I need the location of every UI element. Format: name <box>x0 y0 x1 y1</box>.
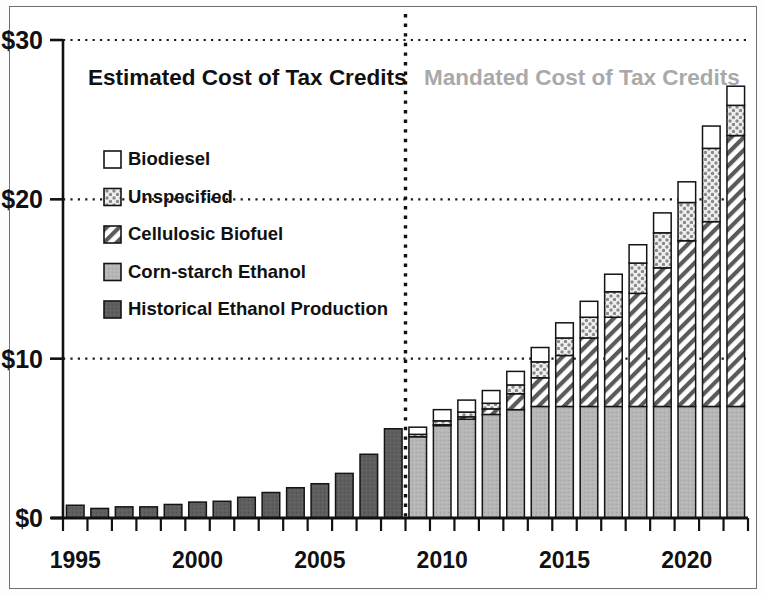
bar-segment <box>140 507 158 518</box>
bar-segment <box>580 317 598 338</box>
bar-segment <box>703 148 721 221</box>
legend-label: Historical Ethanol Production <box>128 298 388 319</box>
bar-segment <box>507 371 525 385</box>
x-axis-tick-label: 2010 <box>417 547 468 573</box>
bar-segment <box>580 301 598 317</box>
y-axis-tick-label: $20 <box>1 185 43 213</box>
x-axis-ticks: 199520002005201020152020 <box>50 518 748 573</box>
bar-segment <box>164 504 182 518</box>
bar-segment <box>654 233 672 268</box>
bar-segment <box>678 241 696 407</box>
x-axis-tick-label: 2005 <box>294 547 345 573</box>
bar-segment <box>703 406 721 518</box>
legend-swatch <box>104 301 121 318</box>
bar-segment <box>433 410 451 421</box>
bar-segment <box>580 338 598 407</box>
bar-segment <box>531 348 549 362</box>
bar-segment <box>507 394 525 410</box>
bar-segment <box>409 427 427 434</box>
bar-segment <box>580 406 598 518</box>
bar-segment <box>238 497 256 518</box>
bar-segment <box>654 268 672 407</box>
bar-segment <box>91 508 109 518</box>
bar-segment <box>360 454 378 518</box>
bar-segment <box>66 505 84 518</box>
legend-label: Corn-starch Ethanol <box>128 261 306 282</box>
bar-segment <box>727 136 745 407</box>
bar-segment <box>654 406 672 518</box>
bar-segment <box>482 409 500 415</box>
bar-segment <box>556 355 574 406</box>
bar-segment <box>531 362 549 378</box>
bar-segment <box>556 406 574 518</box>
bar-segment <box>629 245 647 263</box>
bar-segment <box>409 437 427 518</box>
chart-figure: $0$10$20$30 199520002005201020152020 Est… <box>0 0 763 595</box>
bar-segment <box>629 263 647 293</box>
bar-segment <box>605 292 623 317</box>
bar-segment <box>482 414 500 518</box>
legend-label: Unspecified <box>128 186 233 207</box>
legend-label: Cellulosic Biofuel <box>128 223 283 244</box>
legend-swatch <box>104 226 121 243</box>
x-axis-tick-label: 1995 <box>50 547 101 573</box>
bar-segment <box>311 484 329 518</box>
legend-swatch <box>104 189 121 206</box>
bar-segment <box>531 406 549 518</box>
bar-segment <box>213 501 231 518</box>
bar-segment <box>703 126 721 148</box>
bar-segment <box>727 406 745 518</box>
region-annotation-right: Mandated Cost of Tax Credits <box>424 65 740 90</box>
bar-segment <box>507 410 525 518</box>
bar-segment <box>629 293 647 406</box>
bar-segment <box>678 203 696 241</box>
bar-segment <box>384 429 402 518</box>
y-axis-tick-label: $30 <box>1 26 43 54</box>
chart-legend: BiodieselUnspecifiedCellulosic BiofuelCo… <box>104 148 388 319</box>
legend-label: Biodiesel <box>128 148 210 169</box>
bar-segment <box>703 222 721 407</box>
x-axis-tick-label: 2000 <box>172 547 223 573</box>
bar-segment <box>507 385 525 394</box>
bar-segment <box>556 338 574 356</box>
bar-segment <box>678 182 696 203</box>
bar-segment <box>482 403 500 409</box>
stacked-bar-chart: $0$10$20$30 199520002005201020152020 Est… <box>0 0 763 595</box>
bar-segment <box>531 378 549 407</box>
bar-segment <box>654 213 672 233</box>
bar-segment <box>556 323 574 338</box>
bar-segment <box>189 502 207 518</box>
bar-segment <box>287 488 305 518</box>
annotations-group: Estimated Cost of Tax CreditsMandated Co… <box>88 65 740 90</box>
region-annotation-left: Estimated Cost of Tax Credits <box>88 65 406 90</box>
bar-segment <box>336 473 354 518</box>
bar-segment <box>433 426 451 518</box>
x-axis-tick-label: 2015 <box>539 547 590 573</box>
bar-segment <box>458 419 476 518</box>
bar-segment <box>458 400 476 412</box>
bar-segment <box>482 391 500 404</box>
bar-segment <box>115 507 133 518</box>
bar-segment <box>605 274 623 292</box>
y-axis-ticks: $0$10$20$30 <box>1 26 63 532</box>
y-axis-tick-label: $10 <box>1 345 43 373</box>
x-axis-tick-label: 2020 <box>661 547 712 573</box>
bar-segment <box>605 406 623 518</box>
y-axis-tick-label: $0 <box>15 504 43 532</box>
bar-segment <box>678 406 696 518</box>
bar-segment <box>727 105 745 135</box>
legend-swatch <box>104 151 121 168</box>
bar-segment <box>262 493 280 518</box>
bar-segment <box>629 406 647 518</box>
bar-segment <box>605 317 623 406</box>
legend-swatch <box>104 264 121 281</box>
